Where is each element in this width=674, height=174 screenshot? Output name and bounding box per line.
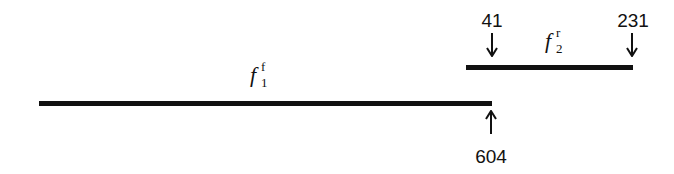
arrow-up-icon <box>485 110 497 134</box>
fragment-f2-end-label: 231 <box>603 11 663 31</box>
fragment-f1-label: f f 1 <box>250 62 256 88</box>
arrow-down-icon <box>486 33 498 57</box>
fragment-f2-start-label: 41 <box>462 11 522 31</box>
fragment-f1-bar <box>39 101 492 106</box>
fragment-f2-label: f r 2 <box>545 28 551 54</box>
fragment-f1-end-label: 604 <box>461 147 521 167</box>
fragment-f2-bar <box>466 65 633 70</box>
arrow-down-icon <box>626 33 638 57</box>
